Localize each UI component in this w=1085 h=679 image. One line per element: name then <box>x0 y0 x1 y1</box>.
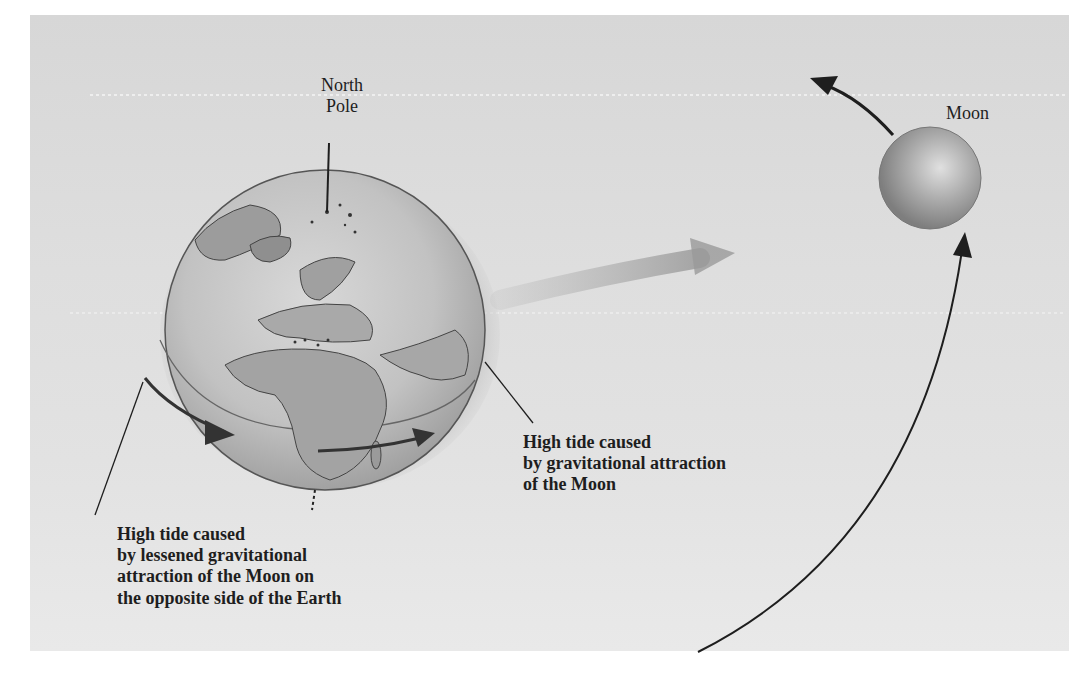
high-tide-near-line: of the Moon <box>523 474 726 495</box>
high-tide-near-leader <box>485 362 533 423</box>
moon-departure-arrowhead <box>810 76 838 95</box>
high-tide-far-leader <box>95 382 143 515</box>
high-tide-near-label: High tide caused by gravitational attrac… <box>523 432 726 496</box>
south-axis-line <box>312 490 315 510</box>
high-tide-far-line: by lessened gravitational <box>117 545 342 566</box>
north-pole-label: North Pole <box>306 75 378 117</box>
high-tide-far-line: attraction of the Moon on <box>117 566 342 587</box>
high-tide-near-line: High tide caused <box>523 432 726 453</box>
moon-orbit-arc <box>698 250 962 652</box>
north-pole-label-line: Pole <box>306 96 378 117</box>
high-tide-far-label: High tide caused by lessened gravitation… <box>117 524 342 609</box>
high-tide-far-line: the opposite side of the Earth <box>117 588 342 609</box>
moon-label: Moon <box>946 103 989 124</box>
moon-departure-arrow <box>825 85 893 135</box>
high-tide-far-line: High tide caused <box>117 524 342 545</box>
gravity-arrow <box>500 238 735 300</box>
moon-orbit-arrowhead <box>953 232 972 258</box>
high-tide-near-line: by gravitational attraction <box>523 453 726 474</box>
moon-sphere <box>879 127 981 229</box>
north-pole-label-line: North <box>306 75 378 96</box>
moon-label-text: Moon <box>946 103 989 124</box>
